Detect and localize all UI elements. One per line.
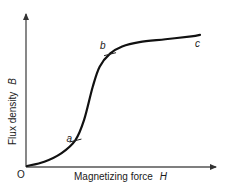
point-label-c: c [195, 38, 200, 49]
x-axis-label-text: Magnetizing force [74, 171, 153, 182]
bh-curve-diagram: O Magnetizing force H Flux density B abc [0, 0, 230, 183]
x-axis-symbol: H [160, 171, 168, 182]
origin-label: O [17, 169, 25, 180]
point-label-a: a [66, 133, 72, 144]
plot-area: abc [27, 35, 200, 166]
y-axis-symbol: B [7, 78, 18, 85]
series-line-bh-curve [27, 35, 200, 166]
point-label-b: b [100, 40, 106, 51]
y-axis-label-text: Flux density [7, 92, 18, 145]
y-axis-label: Flux density B [7, 78, 18, 145]
x-axis-label: Magnetizing force H [74, 171, 168, 182]
